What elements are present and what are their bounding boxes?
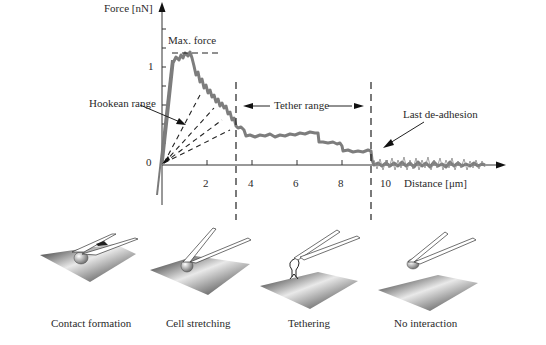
y-tick-1: 1 — [148, 60, 154, 72]
x-tick-10: 10 — [380, 177, 391, 189]
x-axis-label: Distance [μm] — [404, 177, 467, 189]
x-tick-6: 6 — [293, 177, 299, 189]
illustration-no-interaction — [378, 232, 478, 311]
tether-range-label: Tether range — [274, 99, 329, 111]
illustration-tethering — [260, 230, 360, 309]
illustration-cell-stretching — [150, 228, 251, 295]
last-de-adhesion-label: Last de-adhesion — [403, 108, 478, 120]
force-distance-chart — [0, 0, 546, 345]
y-axis-label: Force [nN] — [104, 2, 153, 14]
caption-contact-formation: Contact formation — [51, 317, 131, 329]
caption-cell-stretching: Cell stretching — [166, 317, 230, 329]
y-tick-0: 0 — [146, 156, 152, 168]
last-de-adhesion-arrow — [383, 122, 424, 148]
illustration-contact-formation — [40, 234, 138, 282]
x-tick-8: 8 — [338, 177, 344, 189]
caption-no-interaction: No interaction — [394, 317, 457, 329]
x-tick-4: 4 — [248, 177, 254, 189]
hookean-range-label: Hookean range — [89, 97, 156, 109]
max-force-label: Max. force — [168, 34, 216, 46]
caption-tethering: Tethering — [288, 317, 330, 329]
x-tick-2: 2 — [203, 177, 209, 189]
